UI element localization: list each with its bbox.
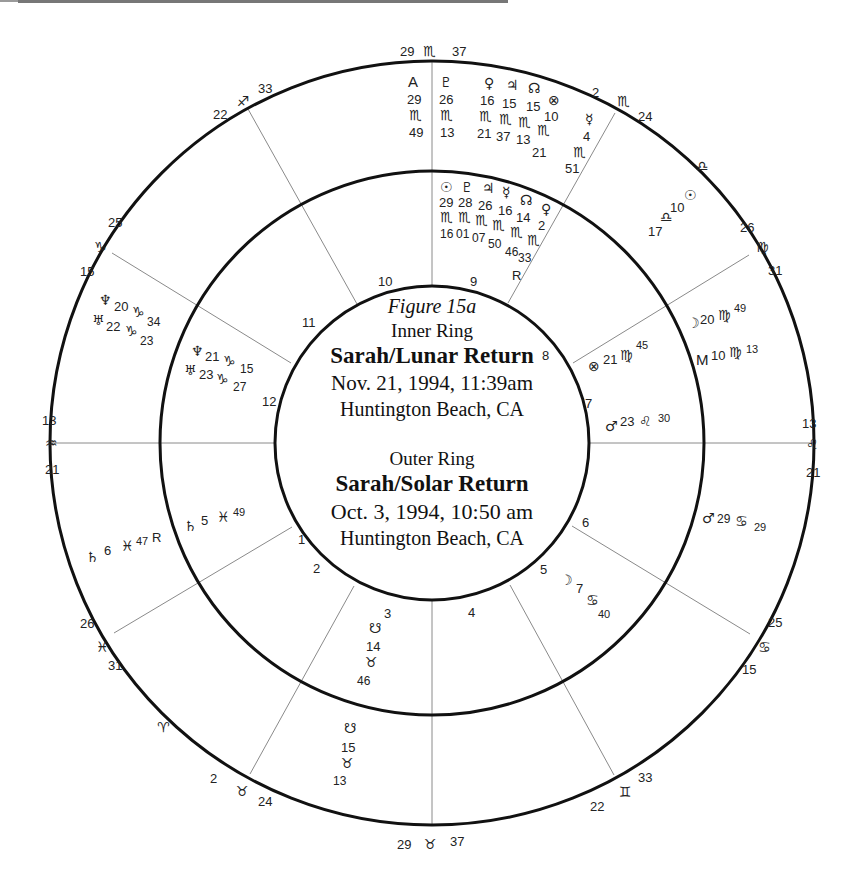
cusp6-minute: 15 (742, 662, 756, 677)
virgo-icon: ♍ (756, 239, 769, 255)
capricorn-icon: ♑ (216, 371, 229, 387)
chart-value-label: 30 (658, 412, 670, 424)
house-2-number: 2 (313, 561, 320, 576)
chart-value-label: 6 (104, 543, 111, 558)
cusp12-minute: 15 (80, 264, 94, 279)
cusp5-minute: 33 (638, 770, 652, 785)
dsc-minute: 21 (806, 465, 820, 480)
cancer-icon: ♋ (758, 639, 771, 655)
cusp11-degree: 22 (213, 107, 227, 122)
cusp2-degree: 26 (80, 616, 94, 631)
scorpio-icon: ♏ (510, 224, 523, 240)
gemini-icon: ♊ (619, 784, 632, 800)
capricorn-icon: ♑ (132, 304, 145, 320)
mars-icon: ♂ (605, 418, 618, 434)
chart-value-label: 14 (516, 210, 530, 225)
chart-value-label: 47 (136, 535, 148, 547)
chart-value-label: 15 (526, 99, 540, 114)
house-7-number: 7 (585, 396, 592, 411)
chart-value-label: 20 (700, 312, 714, 327)
uranus-icon: ♅ (184, 362, 197, 378)
scorpio-icon: ♏ (527, 232, 540, 248)
cusp9-degree: 2 (592, 85, 599, 100)
chart-value-label: 46 (505, 245, 519, 259)
chart-value-label: 23 (199, 367, 213, 382)
aries-icon: ♈ (157, 719, 170, 735)
cusp-3-line (250, 586, 354, 774)
chart-wheel: 29 ♏ 37 22 ♐ 33 25 ♑ 15 13 ♒ 21 26 ♓ 31 … (0, 0, 855, 888)
figure-label: Figure 15a (387, 295, 477, 318)
scorpio-icon: ♏ (573, 144, 586, 160)
asc-minute: 21 (45, 462, 59, 477)
sagittarius-icon: ♐ (237, 93, 250, 109)
house-6-number: 6 (582, 515, 589, 530)
chart-value-label: 4 (583, 129, 590, 144)
jupiter-icon: ♃ (482, 180, 495, 196)
retrograde-marker: R (152, 530, 161, 545)
north-node-icon: ☊ (520, 192, 532, 208)
chart-value-label: 16 (480, 93, 494, 108)
house-9-number: 9 (470, 274, 477, 289)
chart-value-label: 21 (603, 352, 617, 367)
capricorn-icon: ♑ (223, 353, 236, 369)
chart-value-label: 49 (409, 125, 423, 140)
chart-value-label: 23 (140, 334, 154, 348)
house-10-number: 10 (378, 274, 392, 289)
chart-value-label: 49 (233, 506, 245, 518)
virgo-icon: ♍ (718, 307, 731, 323)
scorpio-icon: ♏ (458, 209, 471, 225)
saturn-icon: ♄ (184, 518, 197, 534)
chart-value-label: 26 (478, 198, 492, 213)
mc-degree: 29 (400, 44, 414, 59)
cusp8-degree: 26 (740, 220, 754, 235)
scorpio-icon: ♏ (475, 212, 488, 228)
chart-value-label: 29 (407, 92, 421, 107)
house-11-number: 11 (302, 315, 316, 330)
venus-icon: ♀ (484, 75, 494, 91)
cusp3-degree: 2 (210, 771, 217, 786)
scorpio-icon: ♏ (617, 93, 630, 109)
cancer-icon: ♋ (586, 592, 599, 608)
chart-value-label: 34 (147, 315, 161, 329)
outer-ring-date: Oct. 3, 1994, 10:50 am (331, 499, 533, 524)
chart-value-label: 27 (233, 380, 247, 394)
venus-icon: ♀ (541, 201, 551, 217)
inner-ring-label: Inner Ring (391, 320, 473, 341)
chart-value-label: 15 (240, 362, 254, 376)
chart-value-label: 13 (440, 125, 454, 140)
chart-value-label: 33 (518, 251, 532, 265)
chart-value-label: 07 (472, 231, 486, 245)
chart-value-label: 22 (106, 319, 120, 334)
taurus-icon: ♉ (236, 783, 249, 799)
pluto-icon: ♇ (440, 74, 453, 90)
mercury-icon: ☿ (585, 111, 594, 127)
chart-value-label: 17 (648, 224, 662, 239)
scorpio-icon: ♏ (499, 111, 512, 127)
chart-value-label: 20 (114, 299, 128, 314)
cusp12-degree: 25 (108, 215, 122, 230)
chart-value-label: 10 (711, 348, 725, 363)
house-8-number: 8 (542, 348, 549, 363)
virgo-icon: ♍ (729, 344, 742, 360)
pisces-icon: ♓ (96, 639, 109, 655)
chart-value-label: 29 (754, 521, 766, 533)
chart-value-label: 29 (717, 512, 731, 526)
ic-degree: 29 (397, 837, 411, 852)
cusp6-degree: 25 (768, 615, 782, 630)
cusp-11-line (248, 109, 357, 304)
neptune-icon: ♆ (99, 292, 112, 308)
retrograde-marker: R (512, 268, 521, 283)
house-3-number: 3 (384, 606, 391, 621)
chart-value-label: 5 (201, 513, 208, 528)
inner-ring-place: Huntington Beach, CA (340, 398, 524, 421)
chart-value-label: 16 (440, 227, 454, 241)
cusp9-minute: 24 (638, 109, 652, 124)
outer-ring-name: Sarah/Solar Return (335, 471, 528, 496)
house-12-number: 12 (262, 394, 276, 409)
chart-value-label: 29 (439, 195, 453, 210)
scorpio-icon: ♏ (518, 114, 531, 130)
inner-ring-date: Nov. 21, 1994, 11:39am (331, 371, 533, 395)
house-4-number: 4 (468, 605, 475, 620)
pisces-icon: ♓ (217, 509, 230, 525)
ic-minute: 37 (450, 834, 464, 849)
